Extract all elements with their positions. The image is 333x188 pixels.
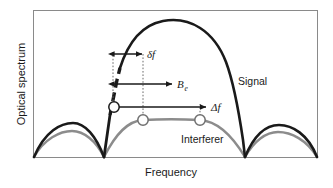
signal-label: Signal	[238, 75, 267, 87]
be-label: B	[177, 78, 184, 90]
figure-background	[0, 0, 333, 188]
marker-interferer-right	[195, 115, 205, 125]
marker-signal-edge	[109, 102, 119, 112]
interferer-label: Interferer	[181, 133, 224, 145]
spectrum-figure: δf B e Δf Signal Interferer Frequency Op…	[0, 0, 333, 188]
figure-svg: δf B e Δf Signal Interferer Frequency Op…	[0, 0, 333, 188]
y-axis-label: Optical spectrum	[15, 43, 27, 126]
x-axis-label: Frequency	[145, 166, 197, 178]
marker-interferer-left	[138, 115, 148, 125]
